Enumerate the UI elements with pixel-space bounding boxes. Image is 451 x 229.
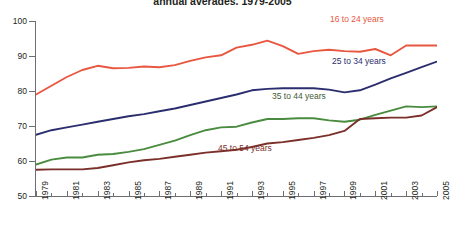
chart-title: annual averages, 1979-2005 <box>0 0 445 5</box>
x-axis-tick-label: 2005 <box>441 181 451 200</box>
y-axis-tick-label: 50 <box>1 192 27 200</box>
plot-area <box>36 21 437 196</box>
series-label-16-to-24: 16 to 24 years <box>330 15 384 24</box>
x-axis-tick <box>437 191 438 196</box>
y-axis-tick <box>29 196 35 197</box>
y-axis-tick <box>29 21 35 22</box>
y-axis-tick-label: 100 <box>1 17 27 25</box>
y-axis-tick-label: 60 <box>1 157 27 165</box>
series-line-2 <box>36 62 437 135</box>
series-label-45-to-54: 45 to 54 years <box>218 144 272 153</box>
y-axis-tick <box>29 126 35 127</box>
series-lines <box>36 21 437 196</box>
y-axis-tick-label: 90 <box>1 52 27 60</box>
x-axis-line <box>35 196 437 197</box>
series-label-25-to-34: 25 to 34 years <box>332 57 386 66</box>
y-axis-tick <box>29 91 35 92</box>
y-axis-tick <box>29 161 35 162</box>
y-axis-tick-label: 80 <box>1 87 27 95</box>
y-axis-tick <box>29 56 35 57</box>
series-line-1 <box>36 41 437 95</box>
series-label-35-to-44: 35 to 44 years <box>272 92 326 101</box>
series-line-4 <box>36 107 437 170</box>
series-line-3 <box>36 106 437 164</box>
y-axis-tick-label: 70 <box>1 122 27 130</box>
